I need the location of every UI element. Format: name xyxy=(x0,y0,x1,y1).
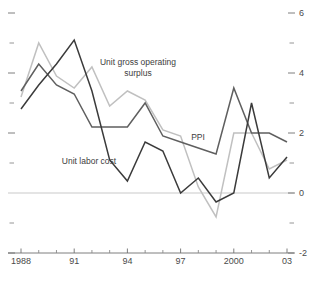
series-line-unit-gross-operating-surplus xyxy=(21,43,287,217)
y-tick-label: 0 xyxy=(299,188,304,198)
line-chart: 1988919497200003 6420-2 Unit gross opera… xyxy=(0,0,320,285)
x-tick-label: 94 xyxy=(122,256,132,266)
x-tick-label: 1988 xyxy=(11,256,31,266)
y-tick-label: 2 xyxy=(299,128,304,138)
annotation-label: Unit labor cost xyxy=(62,156,117,166)
series-line-unit-labor-cost xyxy=(21,64,287,154)
annotation-label: surplus xyxy=(124,68,151,78)
chart-container: 1988919497200003 6420-2 Unit gross opera… xyxy=(0,0,320,285)
x-tick-label: 2000 xyxy=(224,256,244,266)
x-axis xyxy=(8,249,294,254)
x-tick-label: 91 xyxy=(69,256,79,266)
x-tick-label: 03 xyxy=(282,256,292,266)
x-axis-tick-labels: 1988919497200003 xyxy=(11,256,292,266)
x-tick-label: 97 xyxy=(176,256,186,266)
annotation-label: PPI xyxy=(191,132,205,142)
y-tick-label: -2 xyxy=(299,248,307,258)
y-tick-label: 4 xyxy=(299,68,304,78)
annotation-label: Unit gross operating xyxy=(100,57,176,67)
y-tick-label: 6 xyxy=(299,8,304,18)
y-axis-left-ticks xyxy=(8,13,15,253)
y-axis-tick-labels: 6420-2 xyxy=(299,8,307,258)
y-axis-right xyxy=(288,13,295,253)
